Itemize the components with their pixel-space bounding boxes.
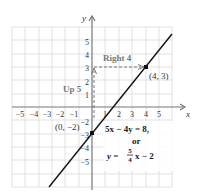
equation-fraction-num: 5 bbox=[128, 147, 132, 155]
equation-or: or bbox=[132, 136, 141, 146]
svg-text:−5: −5 bbox=[80, 158, 89, 167]
svg-text:−5: −5 bbox=[16, 110, 25, 119]
equation-fraction-den: 4 bbox=[128, 156, 132, 164]
y-axis-label: y bbox=[81, 13, 86, 23]
svg-text:1: 1 bbox=[85, 91, 89, 100]
svg-text:3: 3 bbox=[85, 64, 89, 73]
svg-text:−2: −2 bbox=[80, 118, 89, 127]
point-4-3 bbox=[144, 65, 148, 69]
svg-text:5: 5 bbox=[85, 38, 89, 47]
y-tick-labels: 5 4 3 2 1 −2 −3 −4 −5 bbox=[80, 38, 89, 167]
point-4-3-label: (4, 3) bbox=[149, 71, 169, 81]
svg-text:5: 5 bbox=[157, 110, 161, 119]
svg-text:2: 2 bbox=[85, 78, 89, 87]
equation-slope-lhs: y = bbox=[106, 151, 118, 161]
svg-text:2: 2 bbox=[117, 110, 121, 119]
equation-standard: 5x − 4y = 8, bbox=[105, 124, 149, 134]
up-label: Up 5 bbox=[63, 84, 82, 94]
point-intercept-label: (0, −2) bbox=[55, 122, 80, 132]
svg-text:−3: −3 bbox=[43, 110, 52, 119]
x-axis-label: x bbox=[185, 109, 190, 119]
equation-slope-rhs: x − 2 bbox=[135, 151, 154, 161]
svg-text:4: 4 bbox=[144, 110, 148, 119]
svg-text:−4: −4 bbox=[30, 110, 39, 119]
svg-text:−1: −1 bbox=[70, 110, 79, 119]
point-intercept bbox=[90, 131, 94, 135]
svg-text:4: 4 bbox=[85, 51, 89, 60]
graph: x y −5 −4 −3 −2 −1 1 2 3 4 5 5 4 3 2 1 −… bbox=[0, 0, 199, 192]
right-label: Right 4 bbox=[103, 53, 132, 63]
svg-text:−2: −2 bbox=[56, 110, 65, 119]
svg-text:3: 3 bbox=[130, 110, 134, 119]
